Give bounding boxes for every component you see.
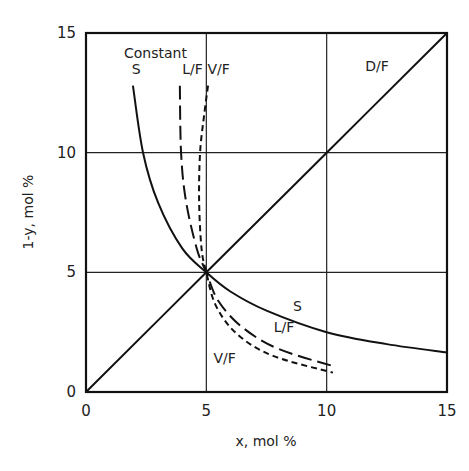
series-s-line [133,86,447,353]
series-label: L/F [182,61,203,77]
series-label: V/F [214,350,236,366]
chart: 051015 051015 x, mol % 1-y, mol % Consta… [0,0,469,471]
y-tick-label: 10 [57,144,76,162]
series-lines [86,33,447,392]
y-tick-label: 5 [66,263,76,281]
series-label: L/F [274,319,295,335]
series-d-f-line [86,33,447,392]
y-tick-label: 0 [66,383,76,401]
y-tick-labels: 051015 [57,24,76,401]
series-label: V/F [208,61,230,77]
series-label: S [293,298,302,314]
x-tick-label: 15 [437,402,456,420]
y-tick-label: 15 [57,24,76,42]
constant-annotation: Constant [124,45,187,61]
x-tick-label: 5 [202,402,212,420]
y-axis-label: 1-y, mol % [20,175,36,250]
series-label: D/F [365,58,389,74]
series-v-f-line [199,86,333,373]
x-tick-label: 10 [317,402,336,420]
series-label: S [132,61,141,77]
x-tick-labels: 051015 [81,402,456,420]
x-axis-label: x, mol % [235,433,296,449]
series-labels: D/FSSL/FL/FV/FV/F [132,58,389,366]
x-tick-label: 0 [81,402,91,420]
